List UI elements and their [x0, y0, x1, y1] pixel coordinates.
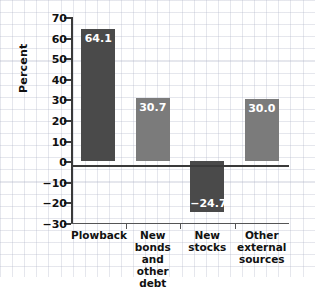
category-label: Other external sources — [235, 229, 290, 265]
bar-value-label: 30.7 — [136, 102, 170, 113]
bar: 64.1 — [81, 29, 115, 161]
y-axis-title: Percent — [17, 44, 30, 93]
y-tick-label: −20 — [42, 198, 67, 209]
y-tick-label: 70 — [52, 13, 67, 24]
y-tick-label: 0 — [59, 157, 67, 168]
bar: 30.0 — [245, 99, 279, 161]
category-label: New bonds and other debt — [126, 229, 181, 289]
y-tick-label: 10 — [52, 136, 67, 147]
bar-value-label: 30.0 — [245, 103, 279, 114]
y-tick-label: 40 — [52, 74, 67, 85]
y-tick-label: 60 — [52, 33, 67, 44]
category-label: Plowback — [71, 229, 126, 241]
plot-area: 706050403020100−10−20−30 64.130.7−24.730… — [71, 17, 289, 223]
y-tick-label: 30 — [52, 95, 67, 106]
bar: −24.7 — [190, 161, 224, 212]
y-tick-label: 50 — [52, 54, 67, 65]
zero-baseline — [71, 165, 289, 167]
y-tick-label: 20 — [52, 116, 67, 127]
bar-value-label: 64.1 — [81, 33, 115, 44]
bar: 30.7 — [136, 98, 170, 161]
y-tick-label: −30 — [42, 219, 67, 230]
y-tick-label: −10 — [42, 177, 67, 188]
category-label: New stocks — [180, 229, 235, 253]
bar-value-label: −24.7 — [190, 198, 224, 209]
